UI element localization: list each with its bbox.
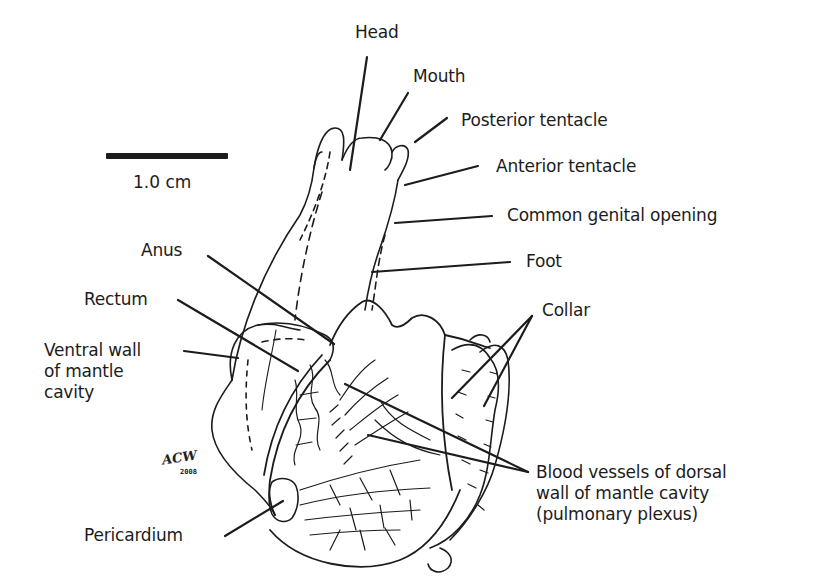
body-outline <box>232 128 408 380</box>
artist-signature-year: 2008 <box>180 468 197 476</box>
mantle-outline <box>212 323 334 515</box>
label-foot: Foot <box>526 251 562 272</box>
pulmonary-plexus <box>294 360 440 550</box>
label-posterior-tentacle: Posterior tentacle <box>461 110 607 131</box>
label-common-genital-opening: Common genital opening <box>507 205 717 226</box>
scale-bar-label: 1.0 cm <box>133 172 191 192</box>
label-blood-vessels-pulmonary-plexus: Blood vessels of dorsal wall of mantle c… <box>536 462 726 525</box>
collar-outline <box>428 335 509 572</box>
label-head: Head <box>355 22 399 43</box>
label-anterior-tentacle: Anterior tentacle <box>496 156 636 177</box>
cavity-rim <box>264 301 490 567</box>
label-ventral-wall-of-mantle-cavity: Ventral wall of mantle cavity <box>44 340 141 403</box>
scale-bar <box>106 153 228 159</box>
anatomy-figure: 1.0 cm Head Mouth Posterior tentacle Ant… <box>0 0 819 580</box>
label-mouth: Mouth <box>413 66 465 87</box>
label-anus: Anus <box>141 240 182 261</box>
label-rectum: Rectum <box>84 289 148 310</box>
label-pericardium: Pericardium <box>84 525 183 546</box>
pericardium-outline <box>269 479 298 522</box>
label-collar: Collar <box>542 300 590 321</box>
